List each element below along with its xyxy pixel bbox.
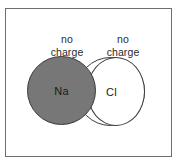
sodium-atom-circle: Na bbox=[27, 56, 96, 125]
sodium-atom-symbol: Na bbox=[28, 85, 95, 97]
sodium-charge-label: no charge bbox=[37, 33, 97, 58]
chlorine-charge-label: no charge bbox=[93, 33, 153, 58]
diagram-canvas: no charge no charge Cl Na bbox=[0, 0, 178, 168]
